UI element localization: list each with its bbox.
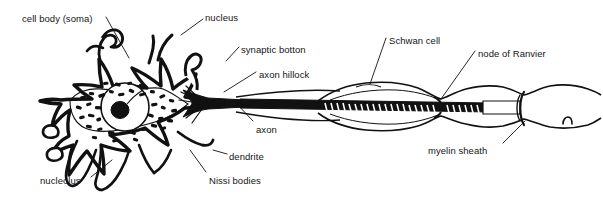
label-schwan-cell: Schwan cell xyxy=(389,35,440,46)
label-nissi-bodies: Nissi bodies xyxy=(209,175,261,186)
dendrite-lower-mid-branch xyxy=(102,151,129,190)
axon-terminal-cap xyxy=(520,92,524,125)
label-node-of-ranvier: node of Ranvier xyxy=(478,48,546,59)
dendrite-knob-left-upper xyxy=(43,125,58,137)
nucleolus-blob xyxy=(111,102,129,119)
leader-synaptic-botton xyxy=(226,47,239,61)
leader-dendrite xyxy=(213,150,227,154)
myelin-inner-lower xyxy=(330,114,438,124)
dendrite-upper-fork xyxy=(99,30,123,60)
leader-nissi-bodies xyxy=(190,150,206,172)
dendrite-right-hook xyxy=(178,132,213,145)
myelin-inner-upper xyxy=(330,90,438,100)
neuron-diagram: cell body (soma) nucleus synaptic botton… xyxy=(0,0,603,197)
dendrite-upper-right-arm-2 xyxy=(149,36,154,63)
label-axon-hillock: axon hillock xyxy=(259,69,309,80)
label-cell-body-soma: cell body (soma) xyxy=(22,13,93,24)
leader-myelin-sheath xyxy=(503,121,525,143)
label-dendrite: dendrite xyxy=(229,151,264,162)
label-nucleolus: nucleolus xyxy=(40,175,81,186)
schwann-cell-nucleus xyxy=(356,85,381,87)
label-nucleus: nucleus xyxy=(205,12,238,23)
dendrite-lower-right-2 xyxy=(154,150,171,173)
label-synaptic-botton: synaptic botton xyxy=(241,44,306,55)
dendrite-knob-left-lower xyxy=(47,148,63,161)
leader-nucleus xyxy=(181,19,203,35)
axon-terminal-gap xyxy=(483,101,520,114)
label-myelin-sheath: myelin sheath xyxy=(428,145,487,156)
distal-sheath-bud xyxy=(563,117,572,124)
leader-axon-hillock xyxy=(224,72,256,92)
dendrite-lower-right xyxy=(139,145,154,173)
label-axon: axon xyxy=(256,124,277,135)
leader-schwan-cell xyxy=(370,38,386,84)
dendrite-upper-right-arm xyxy=(158,35,172,60)
neuron-illustration xyxy=(0,0,603,197)
leader-cell-body-soma xyxy=(106,17,129,58)
